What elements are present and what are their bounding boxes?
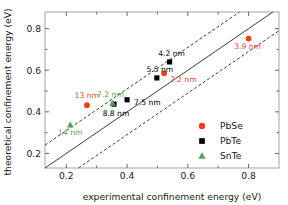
- point-label-pbte-5.5nm: 5.5 nm: [146, 65, 173, 74]
- axis-ticks: [45, 12, 279, 168]
- data-point-snte-14nm: [67, 122, 74, 128]
- scatter-chart-figure: 13 nm7.2 nm3.9 nm8.8 nm7.5 nm5.5 nm4.2 n…: [0, 0, 288, 205]
- point-label-snte-14nm: 14 nm: [58, 128, 82, 137]
- point-label-pbte-4.2nm: 4.2 nm: [158, 49, 185, 58]
- legend-marker-snte: [198, 152, 205, 159]
- legend-marker-pbte: [199, 138, 205, 144]
- legend-label-snte: SnTe: [220, 150, 242, 161]
- point-label-snte-7.2nm: 7.2 nm: [97, 90, 124, 99]
- x-tick-label: 0.4: [120, 170, 135, 181]
- y-axis-title: theoretical confinement energy (eV): [2, 9, 13, 176]
- data-point-pbte-5.5nm: [154, 75, 159, 80]
- axes-frame: [45, 12, 279, 168]
- x-tick-label: 0.2: [59, 170, 74, 181]
- x-tick-label: 0.6: [181, 170, 196, 181]
- data-point-pbse-13nm: [84, 102, 90, 108]
- y-tick-label: 0.8: [26, 23, 41, 34]
- legend-label-pbse: PbSe: [220, 120, 243, 131]
- plot-border: [45, 12, 279, 168]
- point-label-pbte-8.8nm: 8.8 nm: [103, 109, 130, 118]
- point-label-pbte-7.5nm: 7.5 nm: [134, 98, 161, 107]
- data-point-pbte-7.5nm: [124, 97, 129, 102]
- plot-canvas: 13 nm7.2 nm3.9 nm8.8 nm7.5 nm5.5 nm4.2 n…: [0, 0, 288, 205]
- reference-lines: [45, 12, 279, 168]
- y-tick-label: 0.2: [26, 148, 41, 159]
- x-axis-title: experimental confinement energy (eV): [83, 191, 262, 202]
- point-label-pbse-7.2nm: 7.2 nm: [170, 75, 197, 84]
- point-label-pbse-3.9nm: 3.9 nm: [234, 42, 261, 51]
- point-label-pbse-13nm: 13 nm: [75, 91, 99, 100]
- chart-legend: PbSePbTeSnTe: [198, 120, 243, 161]
- y-tick-label: 0.4: [26, 106, 41, 117]
- data-point-pbte-4.2nm: [167, 59, 172, 64]
- y-tick-label: 0.6: [26, 65, 41, 76]
- legend-marker-pbse: [199, 123, 205, 129]
- reference-line-upper-bound: [45, 12, 239, 145]
- legend-label-pbte: PbTe: [220, 135, 241, 146]
- x-tick-label: 0.8: [241, 170, 256, 181]
